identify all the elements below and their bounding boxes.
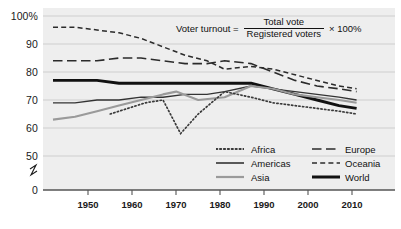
series-line-europe [53,58,357,92]
legend-label-africa: Africa [251,144,307,155]
legend-label-europe: Europe [345,144,380,155]
ytick-label-80: 80 [0,66,38,78]
legend-swatch-americas [216,158,244,168]
legend-swatch-world [312,172,340,182]
formula-denominator: Registered voters [244,29,324,40]
xtick-label-1960: 1960 [112,199,152,210]
xtick-label-2000: 2000 [288,199,328,210]
x-axis-ticks [88,190,352,195]
legend-swatch-asia [216,172,244,182]
ytick-label-0: 0 [0,184,38,196]
formula-multiplier: × 100% [329,23,362,34]
ytick-label-100: 100% [0,10,38,22]
legend-swatch-europe [312,144,340,154]
ytick-label-50: 50 [0,150,38,162]
formula-lead-text: Voter turnout = [176,23,239,34]
xtick-label-1980: 1980 [200,199,240,210]
formula-fraction: Total vote Registered voters [244,17,324,40]
turnout-formula-annotation: Voter turnout = Total vote Registered vo… [176,17,362,40]
xtick-label-1950: 1950 [68,199,108,210]
xtick-label-2010: 2010 [332,199,372,210]
formula-numerator: Total vote [260,17,307,28]
chart-legend: Africa Europe Americas Oceania Asia Worl… [216,142,380,184]
legend-swatch-oceania [312,158,340,168]
legend-label-world: World [345,172,380,183]
legend-label-americas: Americas [251,158,307,169]
legend-label-oceania: Oceania [345,158,380,169]
series-line-asia [53,86,357,120]
axis-break-zigzag-icon [30,165,37,175]
ytick-label-60: 60 [0,122,38,134]
xtick-label-1990: 1990 [244,199,284,210]
ytick-label-70: 70 [0,94,38,106]
voter-turnout-chart: 100% 90 80 70 60 50 0 1950 1960 1970 198… [0,0,401,229]
xtick-label-1970: 1970 [156,199,196,210]
legend-swatch-africa [216,144,244,154]
legend-label-asia: Asia [251,172,307,183]
ytick-label-90: 90 [0,38,38,50]
